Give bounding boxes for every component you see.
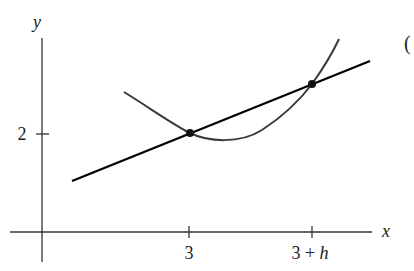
panel-marker: ( [404, 32, 411, 55]
function-curve [124, 39, 339, 140]
y-tick-label-2: 2 [18, 124, 27, 144]
point-at-3-plus-h [308, 80, 316, 88]
point-at-3 [186, 129, 194, 137]
x-tick-label-3-plus-h-text: 3 + [291, 243, 319, 263]
x-axis-label: x [381, 221, 390, 241]
h-variable: h [320, 243, 329, 263]
x-tick-label-3-plus-h: 3 + h [291, 243, 328, 263]
secant-line [72, 61, 370, 181]
secant-diagram: y x 2 3 3 + h ( [0, 0, 414, 271]
y-axis-label: y [31, 12, 41, 32]
x-tick-label-3: 3 [185, 243, 194, 263]
